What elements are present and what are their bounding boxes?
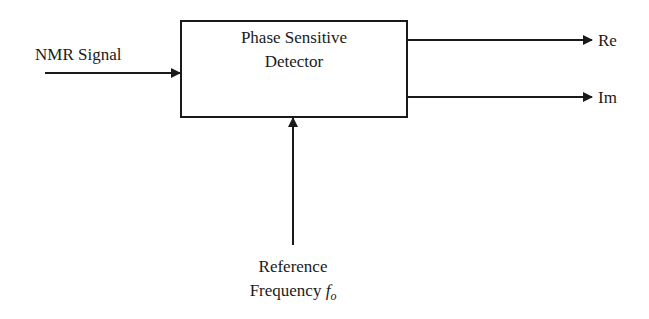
block-label-line1: Phase Sensitive	[181, 26, 407, 50]
frequency-subscript: o	[330, 289, 336, 303]
reference-label-line2: Frequency fo	[193, 282, 393, 302]
reference-label-line1: Reference	[193, 258, 393, 275]
nmr-signal-label: NMR Signal	[35, 46, 121, 63]
re-output-label: Re	[598, 32, 617, 49]
reference-label-text: Frequency	[250, 281, 326, 300]
im-output-label: Im	[598, 89, 617, 106]
block-label: Phase Sensitive Detector	[181, 21, 407, 74]
block-label-line2: Detector	[181, 50, 407, 74]
